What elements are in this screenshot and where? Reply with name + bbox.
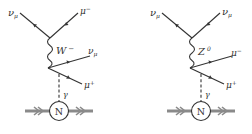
label-muon-minus: μ− [231, 47, 242, 58]
label-photon: γ [205, 90, 210, 99]
label-w-boson: W− [56, 45, 74, 56]
outgoing-muon-minus-line [50, 13, 78, 38]
label-nucleus: N [197, 106, 205, 117]
incoming-neutrino-line [162, 13, 192, 38]
label-z-boson: Z0 [197, 45, 211, 57]
outgoing-muon-plus-line [48, 68, 82, 84]
label-nucleus: N [55, 106, 63, 117]
incoming-neutrino-line [20, 13, 50, 38]
label-photon: γ [63, 90, 68, 99]
w-boson-propagator [48, 38, 53, 68]
diagram-z-exchange [162, 13, 235, 121]
z-boson-propagator [190, 38, 195, 68]
outgoing-neutrino-line [192, 13, 220, 38]
outgoing-muon-plus-line [190, 68, 224, 84]
outgoing-muon-minus-line [190, 56, 232, 68]
label-muon-plus: μ+ [226, 79, 237, 90]
label-incoming-neutrino: νμ [150, 7, 160, 20]
label-muon-minus: μ− [80, 5, 91, 16]
label-outgoing-neutrino: νμ [222, 6, 232, 19]
outgoing-neutrino-line [48, 56, 90, 68]
label-incoming-neutrino: νμ [8, 7, 18, 20]
label-muon-plus: μ+ [84, 79, 95, 90]
diagram-w-exchange [20, 13, 93, 121]
feynman-diagrams: νμ μ− W− νμ μ+ γ N νμ νμ Z0 μ− μ+ γ N [0, 0, 252, 134]
